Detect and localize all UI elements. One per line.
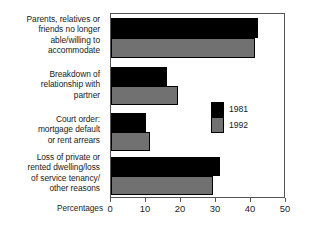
bar-1981-relationship-breakdown (111, 67, 167, 86)
bar-1981-parents-relatives (111, 18, 258, 38)
bar-1981-loss-of-dwelling (111, 157, 220, 176)
category-label-relationship-breakdown: Breakdown of relationship with partner (0, 69, 100, 100)
category-label-line: mortgage default (0, 124, 100, 134)
legend-label-1981: 1981 (229, 102, 248, 117)
legend-label-group: 1981 1992 (229, 102, 248, 133)
category-label-line: Loss of private or (0, 152, 100, 162)
x-tick-mark (215, 198, 216, 202)
legend-label-1992: 1992 (229, 118, 248, 133)
category-label-line: friends no longer (0, 24, 100, 34)
x-tick-label: 30 (210, 203, 220, 214)
category-label-line: of service tenancy/ (0, 173, 100, 183)
category-label-parents-relatives: Parents, relatives or friends no longer … (0, 14, 100, 56)
x-tick-label: 50 (280, 203, 290, 214)
category-label-line: Breakdown of (0, 69, 100, 79)
bar-1992-parents-relatives (111, 38, 255, 58)
bar-1981-court-order (111, 113, 146, 132)
bar-1992-loss-of-dwelling (111, 176, 213, 195)
x-tick-mark (110, 198, 111, 202)
bar-1992-relationship-breakdown (111, 86, 178, 105)
x-tick-mark (250, 198, 251, 202)
plot-area (110, 13, 285, 198)
category-label-line: other reasons (0, 183, 100, 193)
category-label-line: Parents, relatives or (0, 14, 100, 24)
x-tick-label: 20 (175, 203, 185, 214)
x-tick-label: 40 (245, 203, 255, 214)
category-label-line: able/willing to (0, 35, 100, 45)
category-label-line: relationship with (0, 79, 100, 89)
x-axis-title: Percentages (57, 204, 103, 213)
x-tick-mark (145, 198, 146, 202)
horizontal-bar-chart: Parents, relatives or friends no longer … (0, 0, 309, 233)
category-label-court-order: Court order: mortgage default or rent ar… (0, 114, 100, 145)
bar-1992-court-order (111, 132, 150, 151)
category-label-line: accommodate (0, 45, 100, 55)
category-label-loss-of-dwelling: Loss of private or rented dwelling/loss … (0, 152, 100, 194)
legend-swatch-1981 (212, 103, 223, 118)
category-label-line: or rent arrears (0, 135, 100, 145)
x-tick-mark (180, 198, 181, 202)
category-label-line: rented dwelling/loss (0, 162, 100, 172)
x-tick-mark (285, 198, 286, 202)
legend-swatch-1992 (212, 118, 223, 133)
category-label-line: Court order: (0, 114, 100, 124)
x-tick-label: 10 (140, 203, 150, 214)
legend: 1981 1992 (211, 102, 248, 133)
x-tick-label: 0 (107, 203, 112, 214)
legend-swatch-group (211, 102, 224, 133)
category-label-line: partner (0, 90, 100, 100)
